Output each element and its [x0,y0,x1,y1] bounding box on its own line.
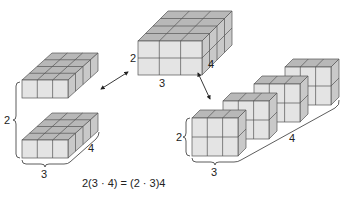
left-stack-label: 2 [4,114,10,126]
arrow-right [198,73,210,99]
right-bracket-height [183,118,190,156]
right-count-label: 4 [289,132,295,144]
left-width-label: 3 [41,168,47,180]
left-bracket-width [22,160,70,167]
right-slab-1 [192,110,246,156]
right-bracket-width [192,158,241,165]
left-bracket-height [13,82,20,158]
slab-bottom-left [22,113,98,158]
arrow-left [101,72,128,89]
center-depth-label: 4 [208,58,214,70]
center-height-label: 2 [130,52,136,64]
center-width-label: 3 [159,77,165,89]
diagram-canvas: 2 3 4 2 3 4 [0,0,351,197]
slab-top-left [22,53,98,98]
center-block [138,11,232,75]
right-height-label: 2 [176,131,182,143]
associative-property-diagram: 2 3 4 2 3 4 [0,0,351,197]
right-width-label: 3 [211,166,217,178]
equation: 2(3 · 4) = (2 · 3)4 [82,177,165,189]
left-depth-label: 4 [88,142,94,154]
